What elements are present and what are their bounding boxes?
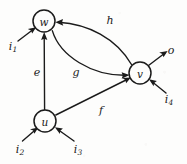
edge-h-path	[59, 22, 132, 64]
edge-e	[41, 32, 47, 110]
edge-label-f: f	[98, 104, 105, 117]
edge-f	[56, 78, 131, 115]
node-u: u	[34, 110, 56, 132]
input-label-i3-sub: 3	[77, 147, 82, 156]
node-w: w	[33, 10, 55, 32]
input-label-i3: i3	[74, 143, 83, 157]
node-w-label: w	[40, 16, 49, 28]
input-label-i4: i4	[165, 93, 174, 107]
input-i3	[55, 127, 74, 141]
graph-canvas: w v u e f g h i1 i2 i3 i4 o	[0, 0, 187, 164]
input-label-i1-sub: 1	[12, 44, 17, 53]
output-o	[149, 51, 168, 66]
input-i2	[23, 127, 39, 141]
edge-g	[52, 31, 129, 79]
node-v: v	[129, 62, 151, 84]
output-o-path	[149, 53, 166, 66]
input-label-i1: i1	[9, 40, 17, 54]
output-label-o: o	[168, 44, 175, 57]
edge-f-path	[56, 79, 128, 115]
input-i3-arrowhead	[55, 127, 63, 134]
edge-h	[55, 19, 131, 65]
edge-label-g: g	[72, 66, 79, 79]
input-label-i2-sub: 2	[18, 147, 24, 156]
edge-g-path	[52, 31, 126, 76]
input-i4	[149, 79, 166, 93]
input-i1	[18, 27, 36, 41]
edge-label-h: h	[106, 14, 113, 27]
graph-diagram: w v u e f g h i1 i2 i3 i4 o	[0, 0, 187, 164]
edge-label-e: e	[34, 66, 41, 79]
node-u-label: u	[42, 116, 49, 128]
input-label-i4-sub: 4	[167, 97, 173, 106]
node-v-label: v	[137, 68, 143, 80]
input-label-i2: i2	[16, 143, 25, 157]
input-i1-path	[18, 29, 34, 41]
